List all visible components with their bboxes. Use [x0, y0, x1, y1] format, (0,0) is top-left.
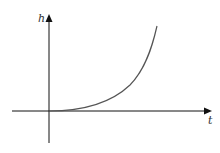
x-axis-label: t [208, 114, 213, 127]
diagram-canvas: h t [0, 0, 220, 153]
y-axis-label: h [38, 12, 45, 25]
y-axis-arrow-icon [46, 14, 53, 22]
growth-curve [49, 26, 157, 111]
